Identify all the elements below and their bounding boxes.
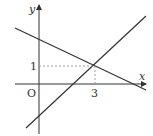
y-axis-label: y [28, 3, 36, 16]
y-tick-label: 1 [30, 60, 37, 73]
coordinate-diagram: y x O 3 1 [0, 0, 153, 136]
line-increasing [26, 16, 146, 128]
origin-label: O [27, 87, 36, 100]
x-tick-label: 3 [91, 87, 98, 100]
line-decreasing [15, 28, 146, 90]
x-axis-label: x [139, 70, 146, 83]
